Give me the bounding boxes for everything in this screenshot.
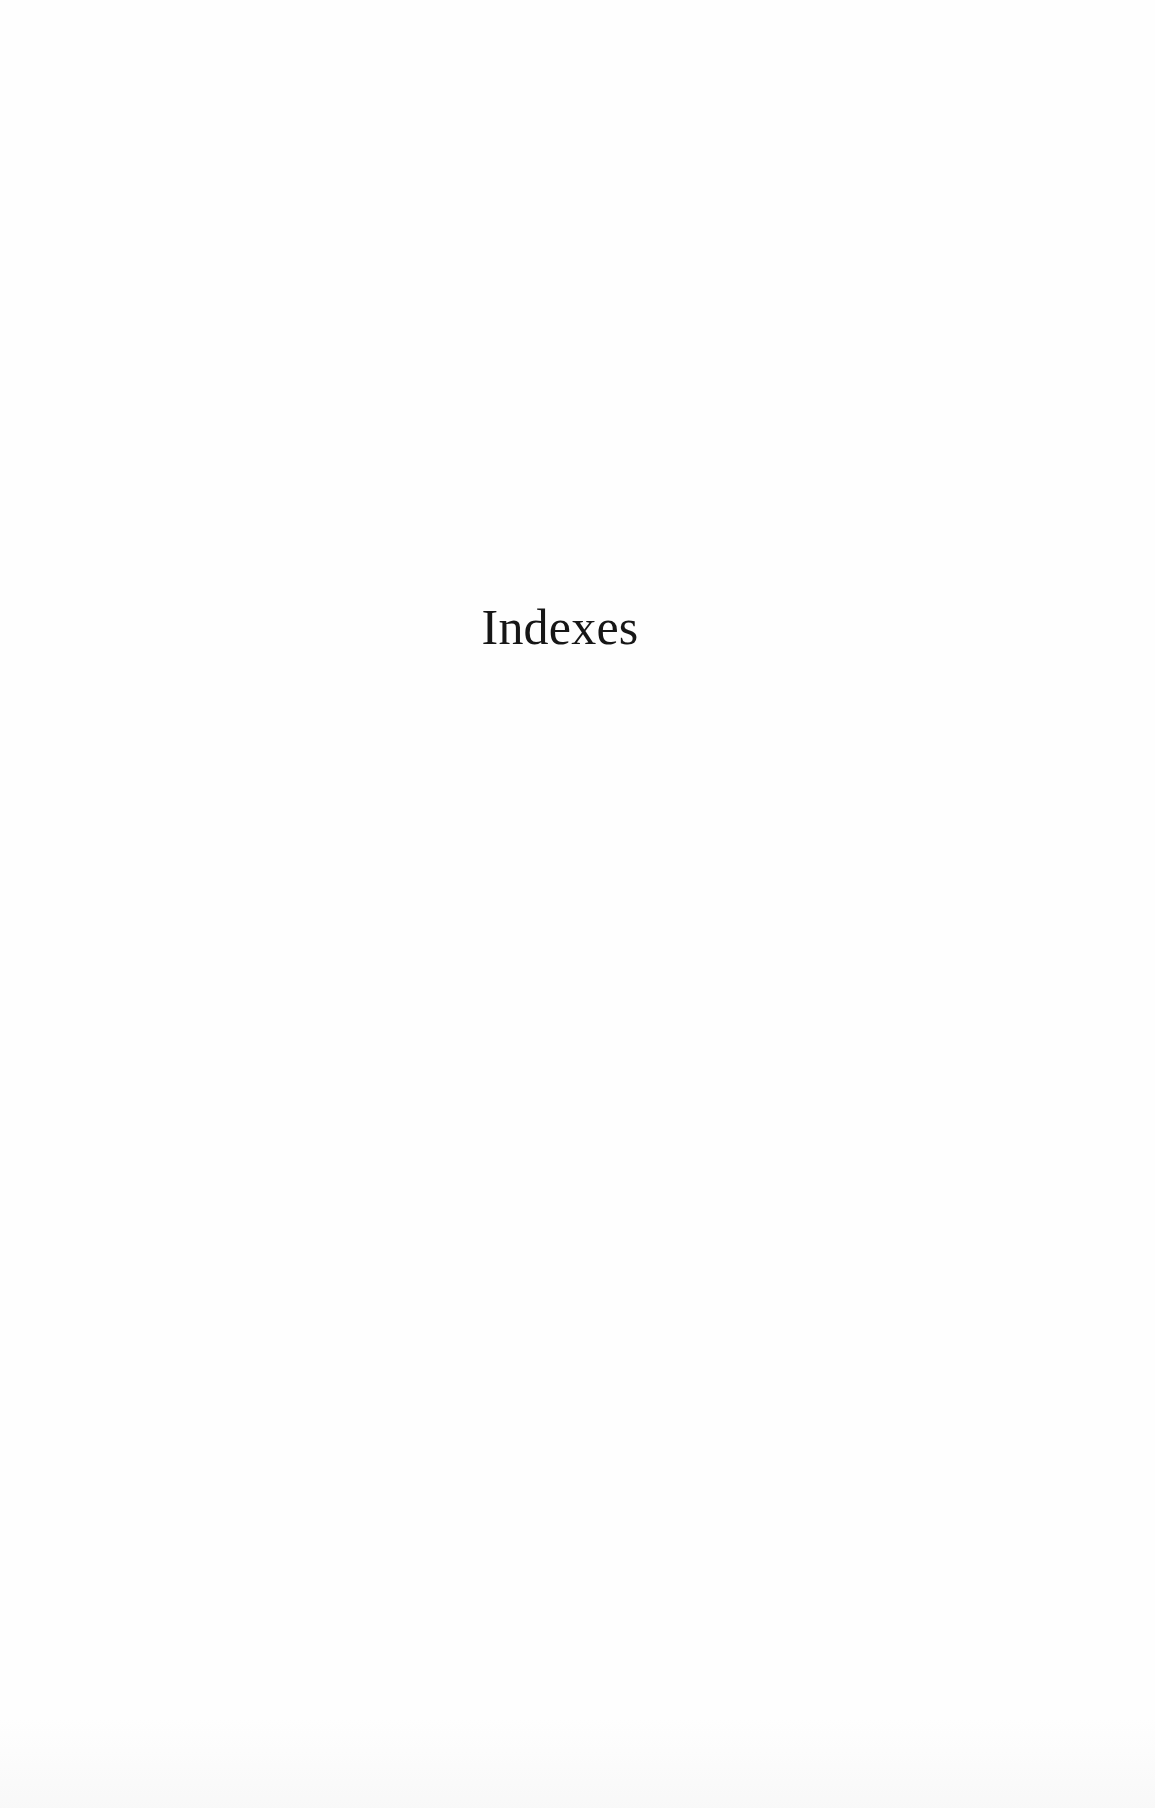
book-page: Indexes <box>0 0 1155 1808</box>
page-bleed-through <box>0 1718 1155 1808</box>
section-title: Indexes <box>0 597 1120 657</box>
